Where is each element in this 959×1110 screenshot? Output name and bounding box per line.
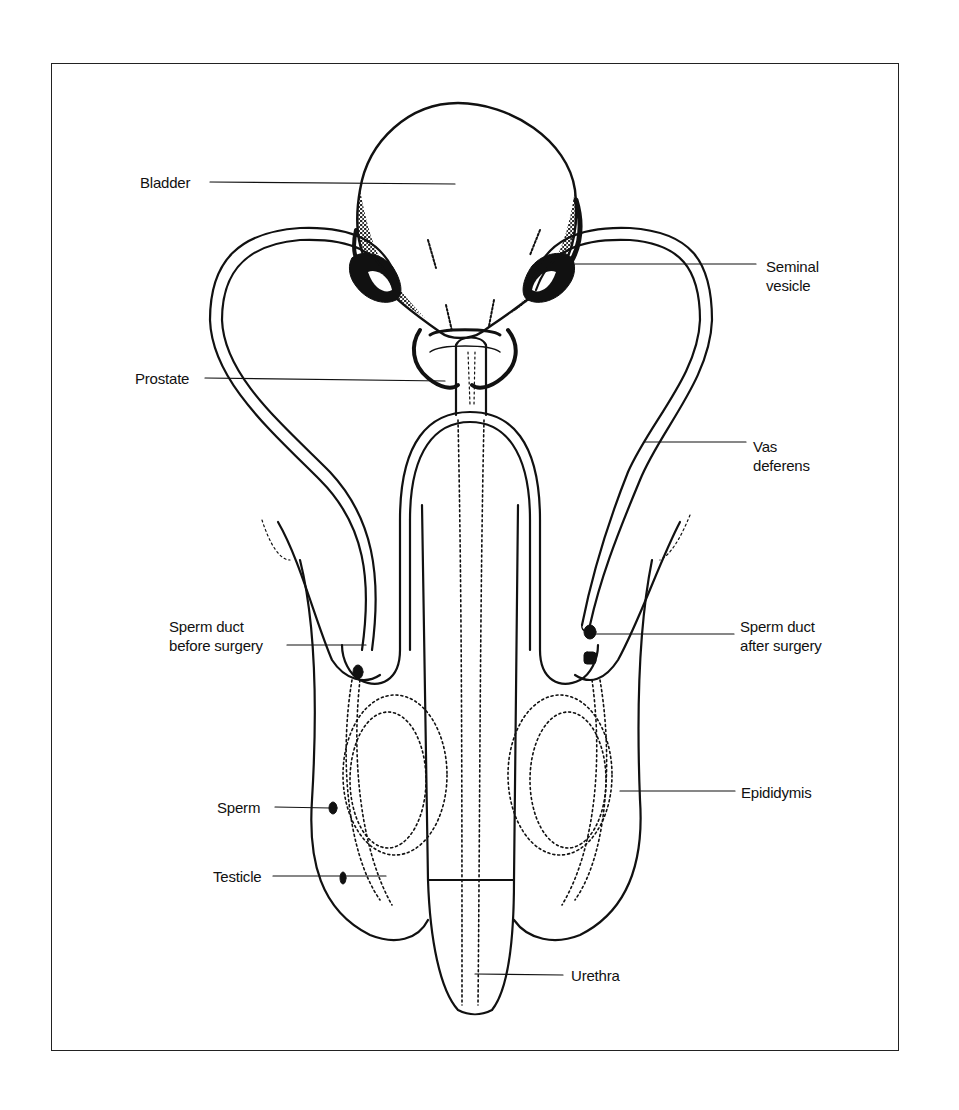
male-reproductive-anatomy-illustration	[0, 0, 959, 1110]
label-sperm-duct-before-surgery: Sperm duct before surgery	[169, 617, 263, 655]
label-urethra: Urethra	[571, 966, 620, 985]
label-vas-deferens: Vas deferens	[753, 437, 810, 475]
label-seminal-vesicle: Seminal vesicle	[766, 257, 819, 295]
label-epididymis: Epididymis	[741, 783, 812, 802]
label-sperm: Sperm	[217, 798, 260, 817]
label-testicle: Testicle	[213, 867, 261, 886]
label-sperm-duct-after-surgery: Sperm duct after surgery	[740, 617, 822, 655]
label-prostate: Prostate	[135, 369, 189, 388]
testicles	[343, 680, 612, 905]
label-bladder: Bladder	[140, 173, 190, 192]
